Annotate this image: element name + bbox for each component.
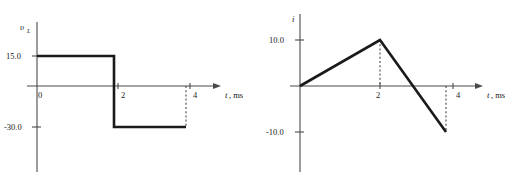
current-x-axis-unit: , ms: [491, 90, 505, 100]
voltage-x-axis-arrow-icon: [213, 83, 221, 89]
voltage-xtick-label-0: 0: [38, 90, 42, 100]
voltage-waveform-trace: [37, 56, 186, 127]
current-ytick-label-10: 10.0: [269, 35, 284, 45]
voltage-x-axis-label: t: [225, 90, 228, 100]
current-chart-svg: i 10.0 -10.0 2 4 t , ms: [263, 0, 525, 177]
current-ytick-label-neg10: -10.0: [266, 127, 284, 137]
voltage-ytick-label-15: 15.0: [6, 51, 21, 61]
current-xtick-label-4: 4: [456, 90, 461, 100]
current-x-axis-arrow-icon: [475, 83, 483, 89]
inductor-voltage-waveform-panel: υ L 15.0 -30.0 0 2 4 t , ms: [0, 0, 263, 177]
voltage-y-axis-label: υ: [20, 22, 24, 32]
voltage-chart-svg: υ L 15.0 -30.0 0 2 4 t , ms: [0, 0, 263, 177]
waveform-figure: υ L 15.0 -30.0 0 2 4 t , ms: [0, 0, 525, 177]
current-xtick-label-2: 2: [376, 90, 380, 100]
voltage-x-axis-unit: , ms: [229, 90, 243, 100]
voltage-ytick-label-neg30: -30.0: [4, 122, 22, 132]
voltage-xtick-label-2: 2: [121, 90, 125, 100]
voltage-y-axis-label-subscript: L: [26, 27, 31, 34]
inductor-current-waveform-panel: i 10.0 -10.0 2 4 t , ms: [263, 0, 525, 177]
current-y-axis-label: i: [292, 14, 295, 24]
voltage-xtick-label-4: 4: [193, 90, 198, 100]
current-x-axis-label: t: [487, 90, 490, 100]
